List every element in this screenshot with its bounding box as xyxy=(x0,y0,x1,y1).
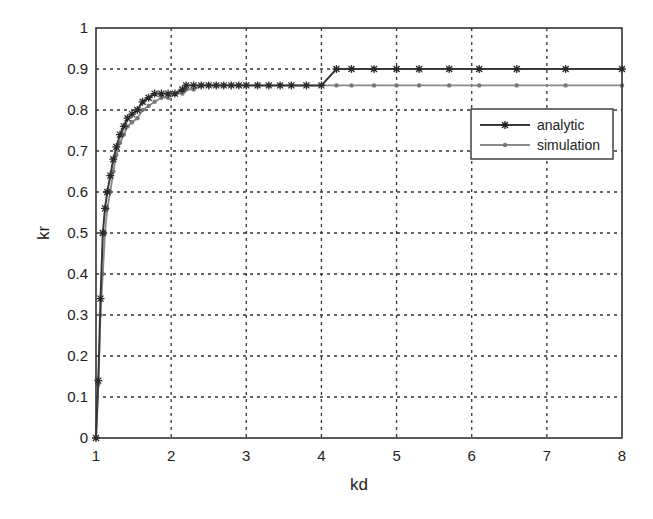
legend-label-simulation: simulation xyxy=(537,137,600,153)
dot-marker-icon xyxy=(372,83,376,87)
star-marker-icon xyxy=(370,65,378,73)
x-tick-label: 8 xyxy=(618,447,626,464)
star-marker-icon xyxy=(101,204,109,212)
legend-analytic-star-icon xyxy=(501,121,509,129)
star-marker-icon xyxy=(227,81,235,89)
y-tick-label: 1 xyxy=(80,19,88,36)
star-marker-icon xyxy=(139,98,147,106)
y-tick-label: 0.1 xyxy=(67,388,88,405)
x-tick-label: 6 xyxy=(468,447,476,464)
star-marker-icon xyxy=(242,81,250,89)
y-tick-label: 0.3 xyxy=(67,306,88,323)
star-marker-icon xyxy=(109,155,117,163)
dot-marker-icon xyxy=(447,83,451,87)
star-marker-icon xyxy=(393,65,401,73)
star-marker-icon xyxy=(445,65,453,73)
star-marker-icon xyxy=(197,81,205,89)
star-marker-icon xyxy=(145,94,153,102)
x-tick-label: 2 xyxy=(167,447,175,464)
star-marker-icon xyxy=(182,81,190,89)
dot-marker-icon xyxy=(394,83,398,87)
y-axis-title: kr xyxy=(34,226,53,241)
star-marker-icon xyxy=(265,81,273,89)
star-marker-icon xyxy=(332,65,340,73)
star-marker-icon xyxy=(112,143,120,151)
star-marker-icon xyxy=(212,81,220,89)
star-marker-icon xyxy=(415,65,423,73)
star-marker-icon xyxy=(317,81,325,89)
line-chart: 12345678 00.10.20.30.40.50.60.70.80.91 k… xyxy=(0,0,653,519)
dot-marker-icon xyxy=(334,83,338,87)
dot-marker-icon xyxy=(152,100,156,104)
x-tick-label: 3 xyxy=(242,447,250,464)
grid-lines xyxy=(96,28,622,438)
star-marker-icon xyxy=(254,81,262,89)
star-marker-icon xyxy=(103,188,111,196)
star-marker-icon xyxy=(133,106,141,114)
x-tick-label: 4 xyxy=(317,447,325,464)
y-tick-label: 0.9 xyxy=(67,60,88,77)
star-marker-icon xyxy=(302,81,310,89)
y-tick-label: 0.7 xyxy=(67,142,88,159)
star-marker-icon xyxy=(120,122,128,130)
star-marker-icon xyxy=(513,65,521,73)
y-axis-ticks: 00.10.20.30.40.50.60.70.80.91 xyxy=(67,19,88,446)
dot-marker-icon xyxy=(477,83,481,87)
x-axis-ticks: 12345678 xyxy=(92,447,626,464)
star-marker-icon xyxy=(287,81,295,89)
star-marker-icon xyxy=(562,65,570,73)
star-marker-icon xyxy=(128,110,136,118)
x-tick-label: 5 xyxy=(392,447,400,464)
y-tick-label: 0.8 xyxy=(67,101,88,118)
x-tick-label: 1 xyxy=(92,447,100,464)
star-marker-icon xyxy=(220,81,228,89)
dot-marker-icon xyxy=(135,116,139,120)
star-marker-icon xyxy=(475,65,483,73)
star-marker-icon xyxy=(347,65,355,73)
dot-marker-icon xyxy=(515,83,519,87)
star-marker-icon xyxy=(276,81,284,89)
y-tick-label: 0.4 xyxy=(67,265,88,282)
star-marker-icon xyxy=(116,131,124,139)
y-tick-label: 0.6 xyxy=(67,183,88,200)
dot-marker-icon xyxy=(349,83,353,87)
x-axis-title: kd xyxy=(350,475,368,494)
x-tick-label: 7 xyxy=(543,447,551,464)
y-tick-label: 0.5 xyxy=(67,224,88,241)
dot-marker-icon xyxy=(417,83,421,87)
legend: analytic simulation xyxy=(471,109,613,159)
star-marker-icon xyxy=(190,81,198,89)
legend-label-analytic: analytic xyxy=(537,117,584,133)
dot-marker-icon xyxy=(146,104,150,108)
legend-simulation-dot-icon xyxy=(503,143,507,147)
dot-marker-icon xyxy=(563,83,567,87)
star-marker-icon xyxy=(99,229,107,237)
star-marker-icon xyxy=(205,81,213,89)
y-tick-label: 0 xyxy=(80,429,88,446)
star-marker-icon xyxy=(97,295,105,303)
star-marker-icon xyxy=(106,172,114,180)
star-marker-icon xyxy=(235,81,243,89)
y-tick-label: 0.2 xyxy=(67,347,88,364)
star-marker-icon xyxy=(171,90,179,98)
